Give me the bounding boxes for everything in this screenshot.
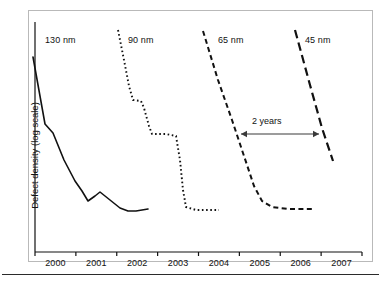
x-axis-tick-label: 2006 (281, 258, 321, 268)
figure-container: Defect density (log scale) 2000200120022… (0, 0, 381, 286)
y-axis-title: Defect density (log scale) (29, 76, 40, 236)
x-axis-tick-label: 2007 (322, 258, 362, 268)
x-axis-tick-label: 2004 (199, 258, 239, 268)
series-label-130-nm: 130 nm (45, 35, 76, 45)
series-label-65-nm: 65 nm (218, 35, 244, 45)
x-axis-tick-label: 2003 (158, 258, 198, 268)
chart-axes (35, 22, 362, 256)
x-axis-tick-label: 2000 (35, 258, 75, 268)
x-axis-tick-label: 2001 (76, 258, 116, 268)
series-label-45-nm: 45 nm (305, 35, 331, 45)
series-line-130-nm (33, 57, 148, 211)
x-axis-tick-label: 2005 (240, 258, 280, 268)
x-axis-tick-label: 2002 (117, 258, 157, 268)
annotation-label: 2 years (252, 116, 282, 126)
two-years-arrow-annotation (241, 131, 319, 137)
series-label-90-nm: 90 nm (128, 35, 154, 45)
chart-series-group (33, 30, 333, 211)
series-line-45-nm (295, 30, 333, 161)
series-line-90-nm (118, 30, 219, 210)
annotation-arrow-head (241, 131, 247, 137)
annotation-arrow-head (313, 131, 319, 137)
